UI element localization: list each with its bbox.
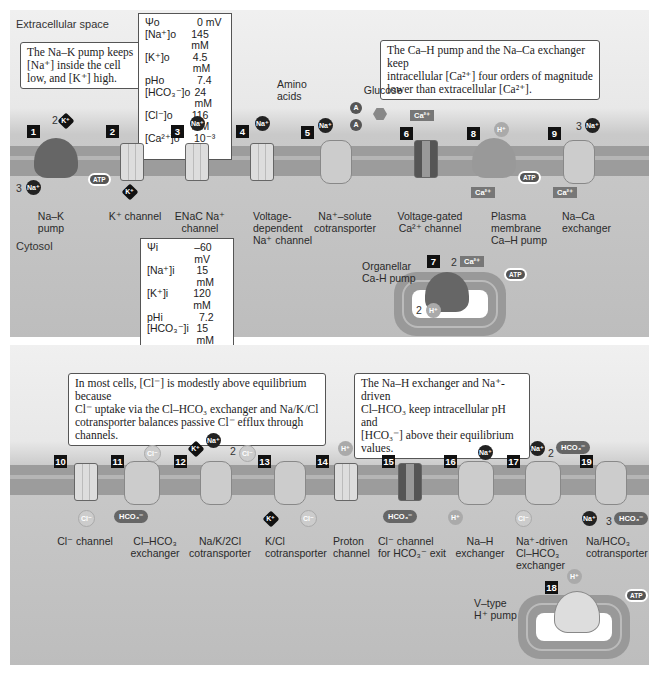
calcium-ion-icon: Ca²⁺: [471, 187, 495, 198]
label-amino-acids: Amino acids: [277, 78, 317, 102]
enac-channel-icon: [185, 143, 209, 181]
label-na-solute-cotransporter: Na⁺–solute cotransporter: [305, 210, 385, 234]
number-badge-2: 2: [106, 125, 119, 138]
na-ca-exchanger-icon: [563, 140, 595, 184]
sodium-ion-icon: Na⁺: [26, 180, 41, 195]
stoich-2: 2: [548, 447, 554, 459]
chloride-ion-icon: Cl⁻: [239, 445, 256, 462]
callout-nak-pump: The Na–K pump keeps [Na⁺] inside the cel…: [20, 42, 142, 89]
number-badge-5: 5: [301, 126, 314, 139]
label-cl-hco3-exchanger: Cl–HCO₃ exchanger: [125, 535, 185, 559]
number-badge-17: 17: [507, 455, 520, 468]
proton-icon: H⁺: [338, 441, 353, 456]
number-badge-19: 19: [580, 455, 593, 468]
na-solute-cotransporter-icon: [320, 140, 352, 184]
cl-hco3-exchanger-icon: [124, 461, 160, 505]
label-cl-channel: Cl⁻ channel: [50, 535, 120, 547]
label-na-k-2cl-cotransporter: Na/K/2Cl cotransporter: [185, 535, 255, 559]
number-badge-14: 14: [316, 455, 329, 468]
sodium-ion-icon: Na⁺: [255, 116, 270, 131]
stoich-2: 2: [451, 256, 457, 268]
na-k-2cl-cotransporter-icon: [200, 461, 232, 505]
label-na-ca-exchanger: Na–Ca exchanger: [562, 210, 622, 234]
number-badge-9: 9: [548, 127, 561, 140]
voltage-ca-channel-icon: [414, 140, 438, 178]
sodium-ion-icon: Na⁺: [582, 511, 597, 526]
stoich-2: 2: [416, 304, 422, 316]
chloride-ion-icon: Cl⁻: [300, 510, 317, 527]
bicarbonate-ion-icon: HCO₃⁻: [556, 441, 590, 454]
label-cl-channel-hco3-exit: Cl⁻ channel for HCO₃⁻ exit: [378, 535, 458, 559]
number-badge-3: 3: [171, 125, 184, 138]
callout-ca-regulation: The Ca–H pump and the Na–Ca exchanger ke…: [380, 40, 600, 100]
proton-icon: H⁺: [494, 122, 509, 137]
number-badge-15: 15: [382, 455, 395, 468]
number-badge-6: 6: [400, 127, 413, 140]
sodium-ion-icon: Na⁺: [585, 118, 600, 133]
calcium-ion-icon: Ca²⁺: [460, 256, 484, 267]
k-cl-cotransporter-icon: [274, 461, 306, 505]
label-organellar-ca-h-pump: Organellar Ca-H pump: [362, 260, 432, 284]
label-v-type-h-pump: V–type H⁺ pump: [474, 597, 524, 621]
label-pm-ca-h-pump: Plasma membrane Ca–H pump: [491, 210, 551, 246]
potassium-ion-icon: K⁺: [122, 184, 139, 201]
label-enac-channel: ENaC Na⁺ channel: [170, 210, 230, 234]
na-k-pump-icon: [34, 138, 78, 178]
number-badge-8: 8: [467, 127, 480, 140]
label-na-h-exchanger: Na–H exchanger: [450, 535, 510, 559]
amino-acid-icon: A: [350, 119, 362, 131]
label-na-driven-cl-hco3-exchanger: Na⁺-driven Cl–HCO₃ exchanger: [516, 535, 586, 571]
proton-icon: H⁺: [567, 569, 582, 584]
label-glucose: Glucose: [358, 84, 408, 96]
proton-icon: H⁺: [426, 303, 441, 318]
sodium-ion-icon: Na⁺: [206, 433, 221, 448]
number-badge-4: 4: [236, 125, 249, 138]
potassium-ion-icon: K⁺: [263, 511, 280, 528]
number-badge-11: 11: [111, 455, 124, 468]
cl-channel-icon: [74, 463, 98, 501]
number-badge-1: 1: [27, 125, 40, 138]
proton-icon: H⁺: [448, 510, 463, 525]
label-k-channel: K⁺ channel: [100, 210, 170, 222]
number-badge-16: 16: [444, 455, 457, 468]
voltage-na-channel-icon: [250, 143, 274, 181]
atp-icon: ATP: [520, 173, 539, 182]
proton-channel-icon: [334, 463, 358, 501]
number-badge-12: 12: [174, 455, 187, 468]
atp-icon: ATP: [627, 591, 646, 600]
sodium-ion-icon: Na⁺: [530, 441, 545, 456]
chloride-ion-icon: Cl⁻: [78, 510, 95, 527]
stoich-2: 2: [230, 445, 236, 457]
region-extracellular: Extracellular space: [16, 18, 109, 30]
calcium-ion-icon: Ca²⁺: [410, 110, 434, 121]
label-k-cl-cotransporter: K/Cl cotransporter: [265, 535, 335, 559]
label-na-hco3-cotransporter: Na/HCO₃ cotransporter: [586, 535, 646, 559]
label-voltage-ca-channel: Voltage-gated Ca²⁺ channel: [395, 210, 465, 234]
sodium-ion-icon: Na⁺: [318, 118, 333, 133]
k-channel-icon: [120, 143, 144, 181]
stoich-3: 3: [576, 120, 582, 132]
na-h-exchanger-icon: [458, 461, 494, 505]
number-badge-7: 7: [427, 255, 440, 268]
region-cytosol: Cytosol: [16, 240, 53, 252]
number-badge-10: 10: [54, 455, 67, 468]
calcium-ion-icon: Ca²⁺: [553, 187, 577, 198]
bicarbonate-ion-icon: HCO₃⁻: [614, 512, 648, 525]
atp-icon: ATP: [506, 270, 525, 279]
label-proton-channel: Proton channel: [333, 535, 383, 559]
na-hco3-cotransporter-icon: [595, 461, 627, 505]
label-na-k-pump: Na–K pump: [26, 210, 76, 234]
glucose-icon: [373, 108, 387, 120]
chloride-ion-icon: Cl⁻: [515, 510, 532, 527]
callout-chloride: In most cells, [Cl⁻] is modestly above e…: [68, 373, 326, 446]
extracellular-concentrations: Ψo0 mV [Na⁺]o145 mM [K⁺]o4.5 mM pHo7.4 […: [138, 13, 232, 160]
stoich-3: 3: [606, 515, 612, 527]
top-panel: Extracellular space Cytosol The Na–K pum…: [10, 10, 649, 337]
atp-icon: ATP: [90, 175, 109, 184]
number-badge-18: 18: [545, 581, 558, 594]
number-badge-13: 13: [258, 455, 271, 468]
bicarbonate-ion-icon: HCO₃⁻: [114, 510, 148, 523]
v-type-h-pump-icon: [554, 591, 600, 633]
bicarbonate-ion-icon: HCO₃⁻: [383, 510, 417, 523]
amino-acid-icon: A: [350, 102, 362, 114]
